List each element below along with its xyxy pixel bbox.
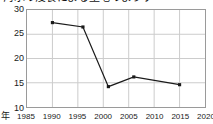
data-point-marker [178,83,181,86]
data-series-line [27,10,205,107]
line-chart-figure: 海水の浸食による土地のようす 1015202530 19851990199520… [0,0,213,124]
y-axis-tick-label: 20 [0,54,24,63]
data-point-marker [107,85,110,88]
y-axis-tick-labels: 1015202530 [0,0,24,124]
chart-title: 海水の浸食による土地のようす [3,0,210,4]
y-axis-tick-label: 25 [0,29,24,38]
x-axis-tick-labels: 19851990199520002005201020152020 [26,112,206,123]
y-axis-tick-label: 15 [0,79,24,88]
data-point-marker [81,25,84,28]
data-point-marker [51,21,54,24]
data-point-marker [132,75,135,78]
y-axis-tick-label: 30 [0,5,24,14]
x-axis-tick-label: 2020 [189,112,213,121]
series-line [52,23,179,87]
x-axis-title: 年 [1,111,10,122]
plot-area [26,9,206,108]
